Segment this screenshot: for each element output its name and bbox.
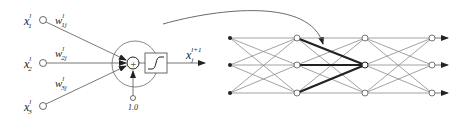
input-node-1 <box>40 17 47 24</box>
input-label-2: xl2 <box>23 55 32 73</box>
weight-label-3: wl3j <box>55 75 67 92</box>
bias-label: 1.0 <box>128 103 138 112</box>
net-input-node <box>228 36 232 40</box>
sum-symbol: + <box>130 58 137 70</box>
network-graph <box>228 35 448 96</box>
weight-label-2: wl2j <box>55 45 67 62</box>
input-node-2 <box>40 60 47 67</box>
net-hidden-node <box>294 62 300 68</box>
net-hidden-node <box>362 90 368 96</box>
net-hidden-node <box>362 35 368 41</box>
input-node-3 <box>40 103 47 110</box>
net-output-node <box>429 62 435 68</box>
neuron-detail: xl1 xl2 xl3 wl1j wl2j wl3j + 1.0 xl+1j <box>23 12 205 115</box>
weight-label-1: wl1j <box>55 12 67 29</box>
net-input-node <box>228 91 232 95</box>
net-output-node <box>429 35 435 41</box>
net-output-node <box>429 90 435 96</box>
net-highlighted-node <box>362 62 368 68</box>
input-label-3: xl3 <box>23 98 32 115</box>
input-label-1: xl1 <box>23 12 32 30</box>
output-label: xl+1j <box>185 46 202 64</box>
net-hidden-node <box>294 35 300 41</box>
net-input-node <box>228 63 232 67</box>
net-hidden-node <box>294 90 300 96</box>
neural-network-diagram: xl1 xl2 xl3 wl1j wl2j wl3j + 1.0 xl+1j <box>0 0 472 115</box>
bias-node <box>131 96 136 101</box>
